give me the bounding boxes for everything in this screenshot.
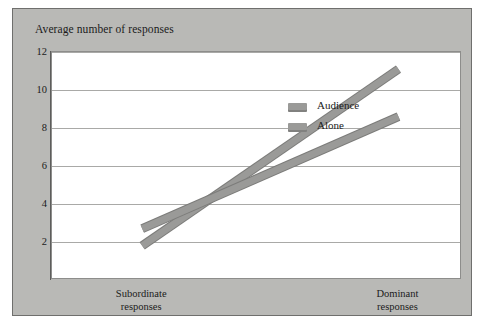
y-axis-tick-labels: 24681012 <box>17 51 47 279</box>
page-title: Average number of responses <box>35 23 174 35</box>
legend-label-alone: Alone <box>317 119 344 131</box>
x-tick-label-dominant: Dominantresponses <box>327 287 467 313</box>
series-lines <box>52 52 462 280</box>
legend-label-audience: Audience <box>317 99 359 111</box>
x-tick-label-line: Dominant <box>327 287 467 300</box>
legend-swatch-alone <box>288 123 307 132</box>
legend-item-audience: Audience <box>288 100 408 116</box>
y-tick-label-10: 10 <box>21 84 47 95</box>
figure-container: Average number of responses 24681012 Aud… <box>0 0 486 325</box>
chart-panel: Average number of responses 24681012 Aud… <box>12 8 472 316</box>
chart-legend: Audience Alone <box>288 100 408 140</box>
y-tick-label-2: 2 <box>21 236 47 247</box>
y-tick-label-8: 8 <box>21 122 47 133</box>
y-tick-label-12: 12 <box>21 46 47 57</box>
plot-area: Audience Alone <box>51 51 461 279</box>
y-tick-label-6: 6 <box>21 160 47 171</box>
legend-item-alone: Alone <box>288 120 408 136</box>
x-tick-label-subordinate: Subordinateresponses <box>71 287 211 313</box>
x-tick-label-line: responses <box>71 300 211 313</box>
x-tick-label-line: Subordinate <box>71 287 211 300</box>
x-tick-label-line: responses <box>327 300 467 313</box>
y-tick-label-4: 4 <box>21 198 47 209</box>
series-line-audience <box>142 69 398 246</box>
legend-swatch-audience <box>288 103 307 112</box>
